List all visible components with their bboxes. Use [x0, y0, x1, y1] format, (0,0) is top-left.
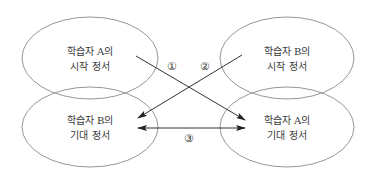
node-label-line1: 학습자 A의	[67, 46, 113, 57]
node-label-line2: 시작 정서	[267, 61, 306, 72]
node-label-line1: 학습자 A의	[264, 115, 310, 126]
edge-3-b-expected-to-a-expected: ③	[138, 128, 245, 145]
node-label-line1: 학습자 B의	[264, 46, 311, 57]
emotion-flow-diagram: 학습자 A의 시작 정서 학습자 B의 시작 정서 학습자 B의 기대 정서 학…	[0, 0, 373, 182]
node-label-line2: 기대 정서	[267, 130, 306, 141]
edge-label-3: ③	[184, 132, 194, 145]
node-label-line2: 기대 정서	[70, 130, 109, 141]
edge-label-2: ②	[200, 60, 210, 73]
edge-label-1: ①	[167, 60, 177, 73]
node-label-line1: 학습자 B의	[67, 115, 114, 126]
node-label-line2: 시작 정서	[70, 61, 109, 72]
